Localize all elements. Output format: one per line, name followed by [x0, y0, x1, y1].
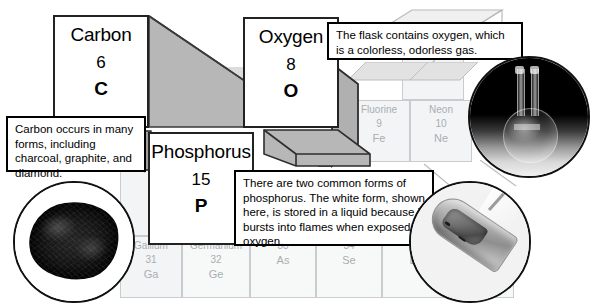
callout-text: Carbon occurs in many forms, including c…: [15, 123, 133, 179]
element-number: 6: [55, 53, 147, 72]
bg-cell-symbol: Se: [317, 254, 381, 266]
element-symbol: O: [245, 80, 337, 101]
element-name: Phosphorus: [150, 141, 252, 162]
bg-cell-symbol: Ge: [183, 268, 249, 280]
callout-text: There are two common forms of phosphorus…: [243, 177, 425, 247]
bg-cell-symbol: As: [251, 254, 315, 266]
element-name: Oxygen: [245, 26, 337, 47]
callout-text: The flask contains oxygen, which is a co…: [336, 29, 505, 56]
carbon-extrusion-shape: [148, 15, 258, 143]
element-card-carbon[interactable]: Carbon 6 C: [53, 15, 149, 128]
element-name: Carbon: [55, 24, 147, 45]
element-card-oxygen[interactable]: Oxygen 8 O: [243, 17, 339, 128]
bg-cell-neon: Neon 10 Ne: [410, 100, 472, 162]
bg-cell-name: Neon: [411, 104, 471, 115]
element-symbol: C: [55, 78, 147, 99]
testtube-photo: [409, 181, 531, 303]
flask-photo: [468, 56, 590, 178]
callout-carbon[interactable]: Carbon occurs in many forms, including c…: [6, 116, 146, 172]
bg-cell-number: 10: [411, 118, 471, 129]
bg-cell-number: 32: [183, 254, 249, 265]
bg-cell-symbol: Ne: [411, 132, 471, 144]
callout-oxygen[interactable]: The flask contains oxygen, which is a co…: [327, 22, 523, 60]
periodic-table-figure: 2 He Fluorine 9 Fe Neon 10 Ne Alu Galliu…: [0, 0, 600, 305]
phosphorus-extrusion-shape: [262, 128, 382, 176]
charcoal-photo: [13, 181, 135, 303]
element-number: 8: [245, 55, 337, 74]
callout-phosphorus[interactable]: There are two common forms of phosphorus…: [234, 170, 434, 246]
